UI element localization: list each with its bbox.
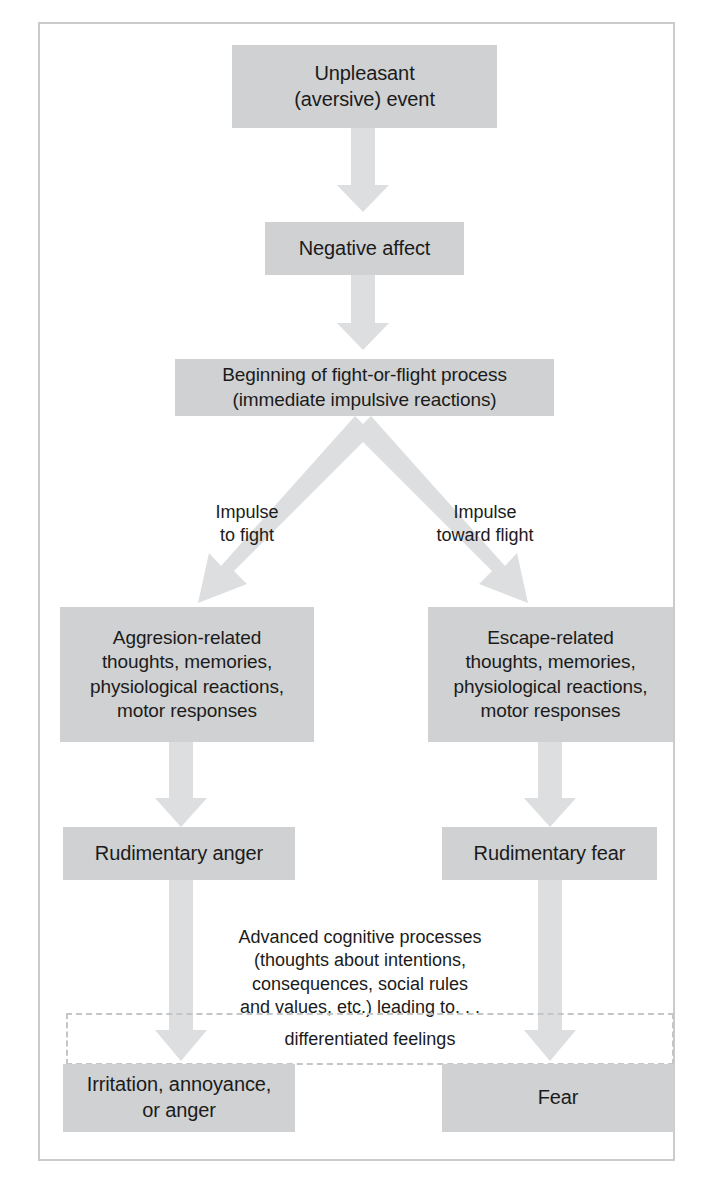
annotation-advanced-cognitive: Advanced cognitive processes (thoughts a… (200, 925, 520, 1020)
node-aggression-related: Aggresion-related thoughts, memories, ph… (60, 607, 314, 742)
node-rudimentary-anger: Rudimentary anger (63, 827, 295, 880)
diagram-canvas: Unpleasant (aversive) event Negative aff… (0, 0, 709, 1184)
differentiated-feelings-label: differentiated feelings (68, 1029, 672, 1050)
node-irritation-annoyance-anger: Irritation, annoyance, or anger (63, 1064, 295, 1132)
node-escape-related: Escape-related thoughts, memories, physi… (428, 607, 673, 742)
diagram-page: Unpleasant (aversive) event Negative aff… (0, 0, 709, 1184)
node-negative-affect: Negative affect (265, 222, 464, 275)
node-unpleasant-event: Unpleasant (aversive) event (232, 45, 497, 128)
node-rudimentary-fear: Rudimentary fear (442, 827, 657, 880)
edge-label-impulse-toward-flight: Impulse toward flight (400, 500, 570, 548)
arrow-event-to-affect (337, 128, 389, 212)
arrow-escape-to-fear (524, 742, 576, 827)
node-fight-or-flight: Beginning of fight-or-flight process (im… (175, 359, 554, 416)
node-fear: Fear (442, 1064, 674, 1132)
arrow-aggression-to-anger (155, 742, 207, 827)
edge-label-impulse-to-fight: Impulse to fight (182, 500, 312, 548)
differentiated-feelings-band: differentiated feelings (66, 1013, 674, 1065)
arrow-affect-to-fightflight (337, 275, 389, 350)
